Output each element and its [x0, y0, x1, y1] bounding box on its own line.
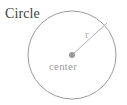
- circle-diagram: Circle r center: [0, 0, 127, 105]
- radius-label: r: [85, 29, 89, 40]
- center-point-dot: [69, 52, 75, 58]
- circle-label: Circle: [5, 7, 40, 21]
- center-label: center: [49, 61, 77, 72]
- radius-line: [72, 23, 107, 55]
